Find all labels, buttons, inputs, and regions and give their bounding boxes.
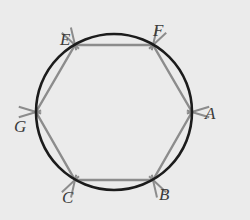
vertex-label-g: G bbox=[14, 118, 26, 135]
vertex-label-a: A bbox=[205, 105, 215, 122]
vertex-label-f: F bbox=[153, 22, 163, 39]
vertex-label-b: B bbox=[159, 186, 169, 203]
geometry-figure: F E A G B C bbox=[0, 0, 250, 220]
tick-mark-layer bbox=[19, 27, 209, 197]
circumscribed-circle-shape bbox=[36, 34, 192, 190]
vertex-label-c: C bbox=[62, 189, 73, 206]
vertex-label-e: E bbox=[60, 31, 70, 48]
inscribed-hexagon-shape bbox=[36, 45, 192, 180]
